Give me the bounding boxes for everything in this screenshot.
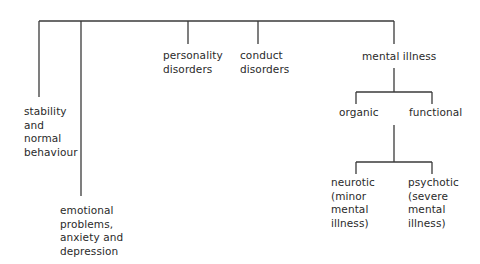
node-mental-illness: mental illness — [362, 50, 436, 64]
node-organic: organic — [339, 106, 379, 120]
node-psychotic: psychotic (severe mental illness) — [408, 176, 459, 230]
node-emotional-problems: emotional problems, anxiety and depressi… — [60, 204, 123, 258]
node-neurotic: neurotic (minor mental illness) — [331, 176, 375, 230]
node-personality-disorders: personality disorders — [163, 49, 223, 76]
node-stability-normal-behaviour: stability and normal behaviour — [24, 105, 78, 159]
node-functional: functional — [409, 106, 462, 120]
node-conduct-disorders: conduct disorders — [240, 49, 289, 76]
